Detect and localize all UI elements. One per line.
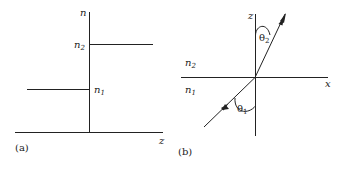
panel-b-refraction: z x n2 n1 θ2 θ1 (b) [178, 10, 331, 157]
panel-a-step-index-profile: n n2 n1 z (a) [15, 7, 165, 153]
x-axis-label: x [325, 78, 331, 89]
theta2-label: θ2 [259, 32, 270, 45]
incident-ray [204, 78, 255, 128]
n-axis-label: n [80, 7, 86, 18]
refraction-figure: n n2 n1 z (a) z x n2 n1 θ2 θ1 (b) [0, 0, 345, 170]
n1-label: n1 [94, 84, 105, 97]
theta1-label: θ1 [237, 103, 248, 116]
n2-label: n2 [74, 39, 85, 52]
n2-medium-label: n2 [185, 57, 196, 70]
n1-medium-label: n1 [185, 84, 196, 97]
z-axis-label: z [158, 135, 165, 146]
panel-a-caption: (a) [15, 142, 29, 153]
panel-b-caption: (b) [178, 146, 192, 157]
z-axis-label: z [247, 10, 254, 21]
